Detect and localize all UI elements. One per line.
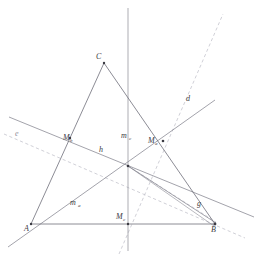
point-c[interactable] <box>103 62 105 64</box>
point-labels-group: A B C M a M b M c <box>23 52 216 234</box>
label-point-b: B <box>211 225 216 234</box>
label-line-ma: m <box>70 198 76 207</box>
geometry-canvas: A B C M a M b M c d e g h m a m c <box>0 0 262 257</box>
label-point-mb-subscript: b <box>70 138 73 143</box>
label-point-mc-subscript: c <box>123 217 126 222</box>
label-point-c: C <box>96 52 102 61</box>
label-point-ma-subscript: a <box>155 141 158 146</box>
point-midpoint-mc[interactable] <box>127 223 129 225</box>
line-d-dashed <box>119 14 223 254</box>
label-line-mc: m <box>121 131 127 140</box>
label-point-a: A <box>23 224 29 233</box>
point-centroid[interactable] <box>127 165 130 168</box>
line-g-secondary <box>128 166 214 226</box>
label-line-g: g <box>197 199 201 208</box>
label-line-ma-subscript: a <box>78 203 81 208</box>
line-h <box>9 117 254 217</box>
point-a[interactable] <box>30 223 32 225</box>
label-line-h: h <box>99 145 103 154</box>
triangle-sides-group <box>31 63 215 224</box>
auxiliary-lines-group <box>8 8 254 251</box>
vertex-points-group <box>30 62 217 226</box>
median-line-ma <box>8 100 215 247</box>
segment-side-ac <box>31 63 104 224</box>
label-line-e: e <box>15 129 19 138</box>
geometry-figure: A B C M a M b M c d e g h m a m c <box>0 0 262 257</box>
point-midpoint-ma[interactable] <box>162 140 165 143</box>
line-g <box>128 166 216 223</box>
label-line-d: d <box>186 94 191 103</box>
label-line-mc-subscript: c <box>129 136 132 141</box>
